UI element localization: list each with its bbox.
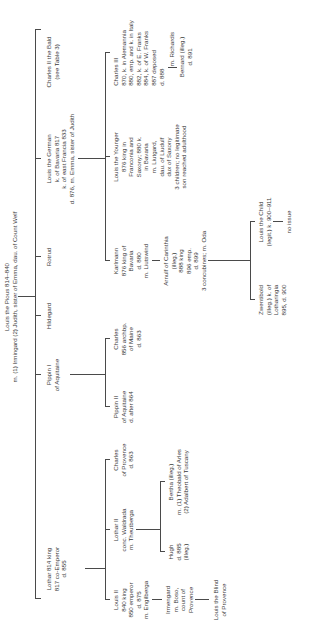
node-bertha: Bertha (illeg.) m. (1) Theobald of Arles…: [167, 449, 190, 515]
connector: [160, 551, 165, 552]
node-line: d. 876, m. Emma, sister of Judith: [68, 114, 76, 204]
node-line: 3 children; no legitimate: [173, 124, 181, 189]
node-line: m. Boso,: [172, 586, 180, 614]
connector: [105, 459, 110, 460]
node-line: Bavaria: [127, 244, 135, 278]
node-line: Rotrud: [45, 248, 53, 267]
node-line: d. after 864: [127, 391, 135, 423]
node-line: 882, k. of E. Franks: [135, 20, 143, 86]
node-line: d. 888: [158, 20, 166, 86]
node-karlmann: Karlmann 876 king of Bavaria d. 880 m. L…: [112, 244, 150, 278]
node-line: 3 concubines; m. Oda: [200, 231, 208, 291]
node-line: 856 archbp.: [120, 323, 128, 356]
node-arnulf-of-carinthia: Arnulf of Carinthia (illeg.) 888 king 89…: [162, 231, 208, 291]
connector: [273, 221, 283, 222]
connector: [105, 460, 106, 600]
connector: [70, 374, 105, 375]
node-charles-of-provence: Charles of Provence d. 863: [112, 443, 135, 476]
node-line: (see Table 3): [53, 37, 61, 88]
connector: [105, 52, 110, 53]
node-line: Lothar II: [112, 509, 120, 552]
node-line: m. Liutgard,: [150, 124, 158, 189]
connector: [136, 529, 160, 530]
connector: [78, 158, 105, 159]
node-pippin-ii: Pippin II of Aquitaine d. after 864: [112, 391, 135, 423]
node-line: (2) Adalbert of Tuscany: [182, 449, 190, 515]
node-louis-the-younger: Louis the Younger 876 king in Franconia …: [112, 124, 188, 189]
genealogy-diagram: Louis the Pious 814–840 m. (1) Irmingard…: [0, 0, 319, 627]
node-louis-ii: Louis II 840 king 850 emperor d. 875 m. …: [112, 581, 150, 619]
node-rotrud: Rotrud: [45, 248, 53, 267]
node-line: of Provence: [120, 443, 128, 476]
connector: [85, 568, 105, 569]
connector: [105, 599, 110, 600]
node-line: of Maine: [127, 323, 135, 356]
node-line: Pippin I: [45, 359, 53, 391]
node-line: Louis II: [112, 581, 120, 619]
node-charles-iii: Charles III 870, k. in Alemannia 880, em…: [112, 20, 165, 86]
node-line: m. Engilberga: [142, 581, 150, 619]
connector: [105, 339, 106, 407]
connector: [35, 256, 41, 257]
node-line: Charles: [112, 443, 120, 476]
node-line: Hugh: [167, 543, 175, 560]
node-bernard: Bernard (illeg.) d. 891: [178, 37, 193, 78]
connector: [208, 260, 250, 261]
node-line: m. (1) Irmingard (2) Judith, sister of E…: [11, 212, 19, 383]
node-line: Charles: [112, 323, 120, 356]
node-line: 870, k. in Alemannia: [120, 20, 128, 86]
node-charles-archbishop: Charles 856 archbp. of Maine d. 863: [112, 323, 142, 356]
connector: [35, 374, 41, 375]
node-hugh: Hugh d. 885 (illeg.): [167, 543, 190, 560]
node-line: (illeg.): [182, 543, 190, 560]
node-line: d. 880: [135, 244, 143, 278]
node-line: Franconia and: [127, 124, 135, 189]
connector: [105, 338, 110, 339]
connector: [160, 481, 165, 482]
node-line: k. of Bavaria 817: [53, 114, 61, 204]
node-line: d. 899: [192, 231, 200, 291]
node-line: Charles III: [112, 20, 120, 86]
node-line: Louis the Pious 814–840: [3, 212, 11, 383]
node-line: Hildegard: [45, 303, 53, 329]
connector: [250, 299, 255, 300]
node-line: 887 deposed: [150, 20, 158, 86]
connector: [105, 260, 110, 261]
node-irmengard: Irmengard m. Boso, count of Provence: [164, 586, 194, 614]
node-line: d. 863: [127, 443, 135, 476]
node-zwentibold: Zwentibold (illeg.) k. of Lotharingia 89…: [257, 285, 287, 316]
node-line: m. Liutswind: [142, 244, 150, 278]
node-lothar-ii: Lothar II conc. Waldrada m. Theutberga: [112, 509, 135, 552]
node-no-issue: no issue: [285, 210, 293, 233]
node-line: 876 king of: [120, 244, 128, 278]
connector: [35, 598, 41, 599]
node-line: Provence: [187, 586, 195, 614]
connector: [35, 158, 41, 159]
node-line: m. Richardis: [168, 32, 176, 66]
node-line: Saxony; 880 k.: [135, 124, 143, 189]
node-line: d. 863: [135, 323, 143, 356]
node-line: 876 king in: [120, 124, 128, 189]
node-line: (legit.) k. 900–911: [265, 197, 273, 246]
node-line: m. (1) Theobald of Arles: [175, 449, 183, 515]
node-line: Louis the Blind: [212, 580, 220, 621]
node-hildegard: Hildegard: [45, 303, 53, 329]
node-line: Irmengard: [164, 586, 172, 614]
node-line: d. 885: [175, 543, 183, 560]
node-lothar: Lothar 814 king 817 co-Emperor d. 855: [45, 547, 68, 591]
node-line: of Aquitaine: [53, 359, 61, 391]
node-line: 884, k. of W. Franks: [142, 20, 150, 86]
node-line: (illeg.): [170, 231, 178, 291]
connector: [160, 482, 161, 552]
node-line: 896 emp.: [185, 231, 193, 291]
node-line: 817 co-Emperor: [53, 547, 61, 591]
node-line: conc. Waldrada: [120, 509, 128, 552]
node-line: 840 king: [120, 581, 128, 619]
node-line: Louis the Child: [257, 197, 265, 246]
connector: [105, 406, 110, 407]
connector: [105, 529, 110, 530]
connector: [105, 156, 110, 157]
node-line: Lothar 814 king: [45, 547, 53, 591]
connector: [168, 67, 177, 68]
node-line: in Bavaria: [142, 124, 150, 189]
